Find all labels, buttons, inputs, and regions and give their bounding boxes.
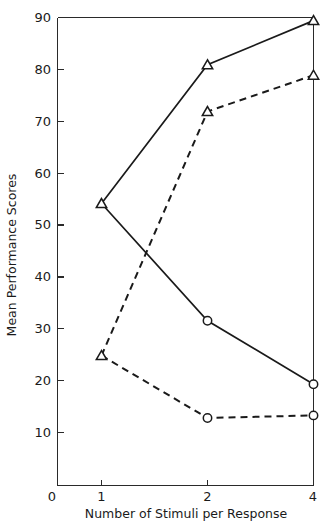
circle-marker (203, 317, 211, 325)
x-tick-label: 2 (203, 489, 211, 504)
y-axis-ticks (58, 18, 64, 433)
x-axis-ticks (102, 480, 208, 486)
series-dashed-triangle-increasing-line (102, 75, 314, 355)
triangle-marker (308, 70, 318, 79)
y-tick-label: 30 (34, 321, 51, 336)
x-tick-label: 0 (48, 489, 56, 504)
plot-svg: 90 80 70 60 50 40 30 20 10 0 1 2 4 (0, 0, 328, 528)
circle-markers (203, 317, 317, 423)
y-tick-label: 60 (34, 166, 51, 181)
circle-marker (203, 414, 211, 422)
circle-marker (309, 380, 317, 388)
y-tick-label: 20 (34, 373, 51, 388)
series-solid-circle-decreasing-line (102, 204, 314, 385)
triangle-marker (202, 60, 212, 69)
y-axis-tick-labels: 90 80 70 60 50 40 30 20 10 (34, 10, 51, 440)
y-tick-label: 40 (34, 269, 51, 284)
triangle-marker (96, 351, 106, 360)
y-axis-title: Mean Performance Scores (4, 174, 19, 337)
x-axis-title: Number of Stimuli per Response (85, 506, 288, 521)
y-tick-label: 50 (34, 217, 51, 232)
line-chart: 90 80 70 60 50 40 30 20 10 0 1 2 4 (0, 0, 328, 528)
x-tick-label: 1 (97, 489, 105, 504)
y-tick-label: 90 (34, 10, 51, 25)
x-tick-label: 4 (309, 489, 317, 504)
x-axis-tick-labels: 0 1 2 4 (48, 489, 317, 504)
triangle-markers (96, 16, 318, 360)
y-tick-label: 80 (34, 62, 51, 77)
y-tick-label: 70 (34, 114, 51, 129)
y-tick-label: 10 (34, 425, 51, 440)
circle-marker (309, 411, 317, 419)
